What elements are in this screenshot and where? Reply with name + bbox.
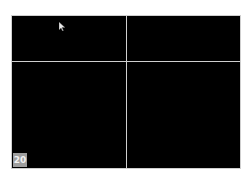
pane-grid: 20 [12,16,240,168]
pane-top-left[interactable] [12,16,126,61]
badge-number: 20 [13,153,27,167]
horizontal-divider[interactable] [12,61,240,62]
pane-bottom-left[interactable] [12,62,126,168]
mouse-cursor-icon [59,22,65,31]
vertical-divider[interactable] [126,16,127,168]
pane-bottom-right[interactable] [127,62,240,168]
pane-top-right[interactable] [127,16,240,61]
